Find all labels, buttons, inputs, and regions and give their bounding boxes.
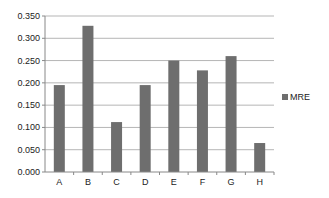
y-tick-label: 0.100 <box>17 122 40 132</box>
legend-label: MRE <box>290 92 310 102</box>
bar-H <box>254 143 265 172</box>
y-tick-label: 0.300 <box>17 33 40 43</box>
x-tick-label: G <box>228 177 235 187</box>
y-tick-label: 0.250 <box>17 56 40 66</box>
bar-B <box>82 26 93 172</box>
bar-A <box>54 85 65 172</box>
bar-C <box>111 122 122 172</box>
bar-chart: 0.0000.0500.1000.1500.2000.2500.3000.350… <box>0 0 329 198</box>
bar-D <box>140 85 151 172</box>
legend-swatch <box>282 94 288 100</box>
legend: MRE <box>282 92 310 102</box>
gridlines <box>45 16 274 150</box>
bar-G <box>226 56 237 172</box>
y-tick-label: 0.150 <box>17 100 40 110</box>
y-tick-label: 0.050 <box>17 145 40 155</box>
x-tick-label: D <box>142 177 149 187</box>
x-tick-label: F <box>200 177 206 187</box>
x-axis: ABCDEFGH <box>45 172 274 187</box>
x-tick-label: C <box>113 177 120 187</box>
bar-E <box>168 61 179 172</box>
y-tick-label: 0.350 <box>17 11 40 21</box>
x-tick-label: A <box>56 177 62 187</box>
y-tick-label: 0.200 <box>17 78 40 88</box>
bar-F <box>197 70 208 172</box>
x-tick-label: E <box>171 177 177 187</box>
y-tick-label: 0.000 <box>17 167 40 177</box>
x-tick-label: B <box>85 177 91 187</box>
x-tick-label: H <box>256 177 263 187</box>
y-axis: 0.0000.0500.1000.1500.2000.2500.3000.350 <box>17 11 45 177</box>
